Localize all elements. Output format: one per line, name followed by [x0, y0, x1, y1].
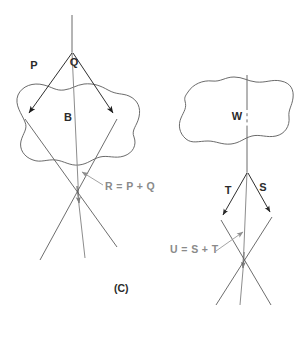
resultant-arrow-u	[243, 252, 244, 268]
resultant-leader-line-b	[82, 172, 103, 185]
left-diagram-group: P Q B R = P + Q	[17, 15, 155, 260]
vector-force-diagram: P Q B R = P + Q T	[0, 0, 297, 342]
label-force-p: P	[30, 59, 37, 71]
right-diagram-group: T S W U = S + T	[170, 75, 293, 305]
force-vector-q	[73, 53, 113, 113]
label-force-t: T	[225, 184, 232, 196]
force-p-line-of-action	[25, 119, 117, 247]
line-of-action-b-lower	[72, 52, 79, 205]
annotation-resultant-r: R = P + Q	[105, 180, 155, 192]
line-of-action-b-tail	[79, 205, 85, 258]
label-force-q: Q	[70, 56, 79, 68]
body-outline-b	[17, 84, 140, 165]
figure-container: P Q B R = P + Q T	[0, 0, 297, 342]
annotation-resultant-u: U = S + T	[170, 243, 219, 255]
label-body-w: W	[232, 110, 243, 122]
label-force-s: S	[259, 181, 266, 193]
label-body-b: B	[64, 111, 72, 123]
line-of-action-w-tail	[240, 270, 243, 305]
panel-label: (C)	[114, 282, 129, 294]
force-t-line-of-action	[221, 220, 271, 305]
